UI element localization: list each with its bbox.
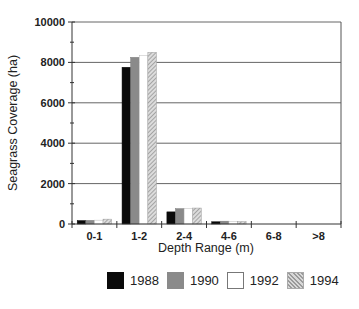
legend-item-1992: 1992: [227, 272, 279, 289]
bar-1990-1-2: [131, 57, 140, 224]
x-tick-label: >8: [312, 230, 325, 242]
legend-item-1990: 1990: [167, 272, 219, 289]
y-tick-label: 4000: [41, 137, 65, 149]
y-tick-label: 8000: [41, 56, 65, 68]
x-tick-label: 6-8: [266, 230, 282, 242]
bars: [77, 52, 246, 224]
x-tick-label: 0-1: [86, 230, 102, 242]
y-axis-ticks: 0200040006000800010000: [34, 16, 75, 230]
legend-item-1994: 1994: [287, 272, 339, 289]
bar-1988-2-4: [167, 212, 176, 224]
bar-1994-1-2: [148, 52, 157, 224]
gridlines: [72, 22, 341, 184]
bar-1992-2-4: [184, 208, 193, 224]
legend-swatch-1992: [227, 272, 244, 289]
bar-1988-0-1: [77, 221, 86, 224]
y-tick-label: 10000: [34, 16, 65, 28]
legend-label: 1992: [250, 273, 279, 288]
bar-1990-2-4: [175, 209, 184, 224]
bar-1992-1-2: [139, 55, 148, 224]
axes: [72, 22, 341, 224]
legend-swatch-1994: [287, 272, 304, 289]
x-axis-title: Depth Range (m): [158, 241, 254, 255]
legend-label: 1994: [310, 273, 339, 288]
bar-1994-2-4: [193, 208, 202, 224]
legend: 1988 1990 1992 1994: [107, 270, 347, 290]
legend-label: 1988: [130, 273, 159, 288]
legend-item-1988: 1988: [107, 272, 159, 289]
y-tick-label: 0: [59, 218, 65, 230]
bar-1994-0-1: [103, 219, 112, 224]
legend-swatch-1990: [167, 272, 184, 289]
bar-1992-0-1: [94, 220, 103, 224]
y-tick-label: 6000: [41, 97, 65, 109]
legend-label: 1990: [190, 273, 219, 288]
bar-chart: 0200040006000800010000 0-11-22-44-66-8>8…: [0, 0, 359, 309]
y-tick-label: 2000: [41, 178, 65, 190]
legend-swatch-1988: [107, 272, 124, 289]
bar-1990-0-1: [86, 220, 95, 224]
x-tick-label: 1-2: [131, 230, 147, 242]
bar-1988-1-2: [122, 67, 131, 224]
y-axis-title: Seagrass Coverage (ha): [6, 55, 20, 191]
